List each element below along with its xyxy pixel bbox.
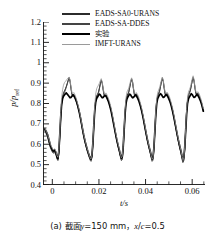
caption-value-y: =150 mm，	[84, 221, 134, 231]
x-tick-label: 0.06	[177, 187, 207, 196]
legend-label: EADS-SA-DDES	[95, 19, 149, 29]
legend-line-icon	[62, 33, 90, 36]
y-axis-title-separator: /	[8, 100, 18, 102]
y-axis-title-subscript: ref	[14, 89, 20, 96]
y-axis-ticks	[44, 22, 50, 185]
y-tick-label: 0.6	[15, 140, 41, 149]
legend-label: IMFT-URANS	[95, 39, 141, 49]
legend-item: 实验	[62, 29, 212, 39]
figure-panel: 1.21.110.90.80.70.60.50.4 p/pref 00.020.…	[0, 0, 215, 245]
legend-label: EADS-SA0-URANS	[95, 9, 159, 19]
caption-value-xc: =0.5	[144, 221, 164, 231]
y-tick-label: 0.5	[15, 160, 41, 169]
y-axis-title-numerator: p	[8, 102, 18, 106]
x-axis-title: t/s	[43, 198, 205, 208]
legend-label: 实验	[95, 29, 109, 39]
legend-line-icon	[62, 13, 90, 15]
y-tick-label: 1.2	[15, 18, 41, 27]
x-tick-label: 0.02	[84, 187, 114, 196]
y-axis-title-denominator: p	[8, 96, 18, 100]
y-axis-title: p/pref	[8, 75, 20, 121]
legend-item: EADS-SA0-URANS	[62, 9, 212, 19]
figure-caption: (a) 截面y=150 mm，x/c=0.5	[0, 219, 215, 231]
data-series-group	[45, 76, 204, 163]
legend-line-icon	[62, 44, 90, 45]
y-tick-label: 1	[15, 58, 41, 67]
x-tick-label: 0.04	[131, 187, 161, 196]
caption-index: (a)	[50, 221, 62, 231]
legend-item: EADS-SA-DDES	[62, 19, 212, 29]
y-tick-label: 1.1	[15, 38, 41, 47]
x-tick-label: 0	[37, 187, 67, 196]
legend-line-icon	[62, 23, 90, 25]
caption-section-label: 截面	[65, 221, 81, 231]
chart-legend: EADS-SA0-URANSEADS-SA-DDES实验IMFT-URANS	[62, 9, 212, 49]
legend-item: IMFT-URANS	[62, 39, 212, 49]
x-axis-ticks	[52, 179, 204, 185]
